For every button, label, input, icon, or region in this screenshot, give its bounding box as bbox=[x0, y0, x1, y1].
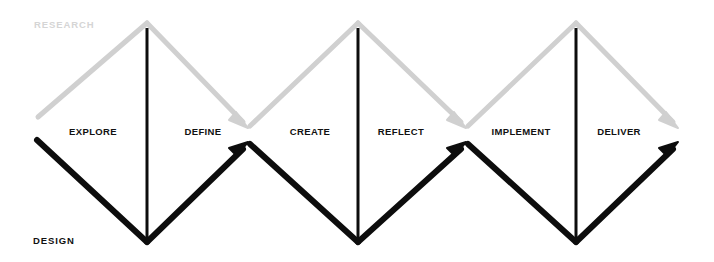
research-stroke-diamond-1-ascend bbox=[38, 23, 147, 117]
research-stroke-diamond-2-ascend bbox=[250, 23, 358, 126]
design-arrow-diamond-3-ascend bbox=[576, 149, 673, 242]
double-diamond-diagram: RESEARCH DESIGN EXPLORE DEFINE CREATE RE… bbox=[0, 0, 714, 262]
design-stroke-diamond-1-descend bbox=[37, 140, 147, 242]
research-stroke-diamond-3-ascend bbox=[468, 23, 576, 126]
design-arrow-diamond-2-ascend bbox=[358, 149, 461, 242]
design-arrow-diamond-1-ascend bbox=[147, 149, 243, 242]
research-arrow-diamond-3-descend bbox=[576, 23, 673, 122]
phase-label-deliver: DELIVER bbox=[597, 126, 641, 137]
research-arrowhead-3 bbox=[659, 112, 678, 128]
research-arrow-diamond-1-descend bbox=[147, 23, 243, 122]
design-stroke-diamond-3-descend bbox=[468, 144, 576, 242]
track-label-research: RESEARCH bbox=[34, 19, 95, 30]
research-arrowhead-1 bbox=[229, 112, 248, 128]
research-arrow-diamond-2-descend bbox=[358, 23, 461, 122]
phase-label-implement: IMPLEMENT bbox=[491, 126, 550, 137]
track-label-design: DESIGN bbox=[33, 235, 75, 246]
design-stroke-diamond-2-descend bbox=[250, 144, 358, 242]
phase-label-create: CREATE bbox=[290, 126, 330, 137]
phase-label-explore: EXPLORE bbox=[69, 126, 117, 137]
phase-label-reflect: REFLECT bbox=[378, 126, 424, 137]
phase-label-define: DEFINE bbox=[185, 126, 222, 137]
